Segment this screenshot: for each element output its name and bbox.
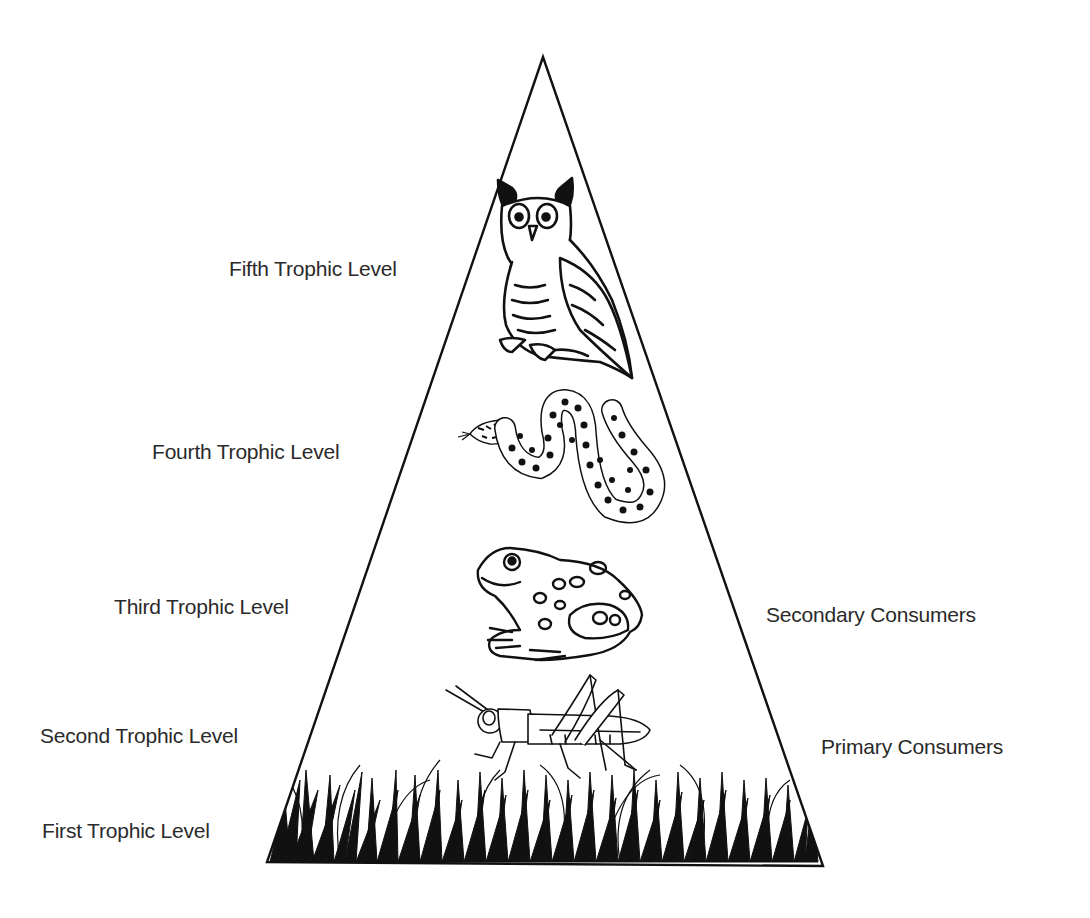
grass-icon: [270, 760, 818, 862]
frog-icon: [478, 548, 642, 660]
trophic-pyramid: [0, 0, 1090, 918]
snake-icon: [458, 399, 654, 514]
grasshopper-icon: [446, 675, 650, 780]
owl-icon: [498, 178, 632, 378]
